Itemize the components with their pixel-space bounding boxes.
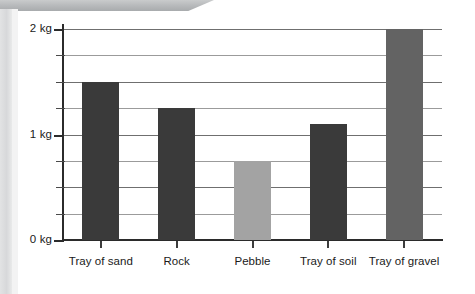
y-axis-label: 0 kg	[6, 233, 52, 245]
bar	[82, 82, 119, 240]
y-axis-labels: 2 kg1 kg0 kg	[0, 0, 52, 294]
y-axis-label: 2 kg	[6, 22, 52, 34]
x-axis-tick	[252, 241, 254, 248]
x-axis-label: Tray of sand	[69, 255, 133, 267]
bar	[234, 161, 271, 240]
bar	[386, 29, 423, 240]
y-axis-label: 1 kg	[6, 128, 52, 140]
bar	[310, 124, 347, 240]
x-axis-tick	[100, 241, 102, 248]
bar-chart: 2 kg1 kg0 kg Tray of sandRockPebbleTray …	[0, 0, 475, 294]
x-axis-label: Rock	[163, 255, 189, 267]
x-axis-label: Tray of gravel	[369, 255, 440, 267]
x-axis-tick	[403, 241, 405, 248]
bar-series	[63, 29, 442, 240]
x-axis-label: Tray of soil	[300, 255, 356, 267]
x-axis-label: Pebble	[234, 255, 270, 267]
bar	[158, 108, 195, 240]
chart-page: 2 kg1 kg0 kg Tray of sandRockPebbleTray …	[0, 0, 475, 294]
y-axis-major-tick	[54, 240, 64, 242]
x-axis-tick	[327, 241, 329, 248]
x-axis-tick	[176, 241, 178, 248]
